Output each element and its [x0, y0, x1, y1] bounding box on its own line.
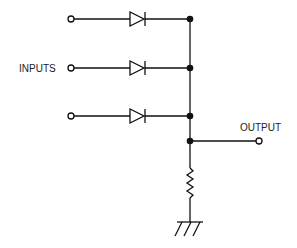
- diode-1-icon: [130, 12, 145, 26]
- junction-dot-3: [187, 113, 194, 120]
- input-branch-1: [68, 12, 190, 26]
- circuit-diagram: INPUTS OUTPUT: [0, 0, 297, 248]
- output-terminal: [256, 138, 262, 144]
- ground-icon: [175, 222, 203, 236]
- diode-3-icon: [130, 109, 145, 123]
- diode-2-icon: [130, 61, 145, 75]
- input-terminal-1: [68, 16, 74, 22]
- junction-dot-2: [187, 65, 194, 72]
- input-terminal-3: [68, 113, 74, 119]
- inputs-label: INPUTS: [19, 63, 56, 74]
- resistor-icon: [187, 168, 193, 198]
- output-label: OUTPUT: [240, 122, 281, 133]
- junction-dot-output: [187, 138, 194, 145]
- input-branch-3: [68, 109, 190, 123]
- junction-dot-1: [187, 16, 194, 23]
- input-branch-2: [68, 61, 190, 75]
- input-terminal-2: [68, 65, 74, 71]
